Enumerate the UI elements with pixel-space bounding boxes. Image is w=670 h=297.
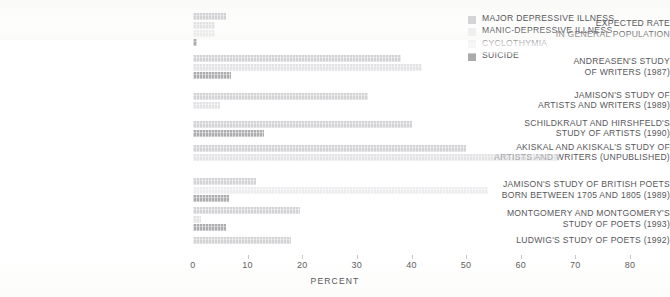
x-tick-60 <box>521 255 522 259</box>
bar-6-3 <box>193 224 226 231</box>
bar-0-2 <box>193 30 215 37</box>
bar-1-1 <box>193 64 422 71</box>
bar-5-2 <box>193 187 488 194</box>
x-axis-title: PERCENT <box>0 276 670 286</box>
bar-3-0 <box>193 121 412 128</box>
bar-5-3 <box>193 195 229 202</box>
x-tick-20 <box>302 255 303 259</box>
bar-4-0 <box>193 145 466 152</box>
x-tick-10 <box>248 255 249 259</box>
legend-label-1: MANIC-DEPRESSIVE ILLNESS <box>482 25 612 35</box>
x-tick-label-70: 70 <box>570 260 581 270</box>
legend-swatch-manic-depressive-icon <box>468 28 476 36</box>
bar-2-1 <box>193 102 220 109</box>
x-tick-70 <box>575 255 576 259</box>
x-tick-label-40: 40 <box>406 260 417 270</box>
bar-0-0 <box>193 13 226 20</box>
bar-7-0 <box>193 237 291 244</box>
bar-4-1 <box>193 154 559 161</box>
x-tick-label-20: 20 <box>297 260 308 270</box>
x-tick-label-10: 10 <box>242 260 253 270</box>
legend-swatch-cyclothymia-icon <box>468 40 476 48</box>
x-tick-label-0: 0 <box>190 260 195 270</box>
bar-0-3 <box>193 39 197 46</box>
x-tick-50 <box>466 255 467 259</box>
bar-6-0 <box>193 207 300 214</box>
bar-3-3 <box>193 130 264 137</box>
bar-6-1 <box>193 216 201 223</box>
x-tick-40 <box>412 255 413 259</box>
bar-2-0 <box>193 93 368 100</box>
x-tick-80 <box>630 255 631 259</box>
legend-label-3: SUICIDE <box>482 50 519 60</box>
legend-swatch-major-depressive-icon <box>468 16 476 24</box>
legend-label-0: MAJOR DEPRESSIVE ILLNESS <box>482 13 614 23</box>
chart-figure: EXPECTED RATE IN GENERAL POPULATIONANDRE… <box>0 0 670 297</box>
bar-1-0 <box>193 55 401 62</box>
legend-swatch-suicide-icon <box>468 53 476 61</box>
bar-5-0 <box>193 178 256 185</box>
x-tick-label-50: 50 <box>461 260 472 270</box>
x-tick-label-60: 60 <box>515 260 526 270</box>
x-tick-label-30: 30 <box>352 260 363 270</box>
x-tick-label-80: 80 <box>625 260 636 270</box>
bar-1-3 <box>193 72 231 79</box>
legend-label-2: CYCLOTHYMIA <box>482 38 547 48</box>
bar-0-1 <box>193 22 215 29</box>
x-tick-30 <box>357 255 358 259</box>
